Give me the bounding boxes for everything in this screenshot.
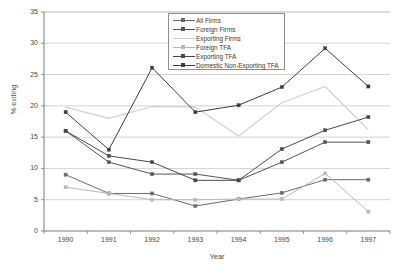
line-chart: % exiting Year 05101520253035 1990199119… — [0, 0, 402, 270]
x-tick-label: 1992 — [132, 236, 172, 243]
legend-item: Domestic Non-Exporting TFA — [169, 61, 284, 70]
x-tick-label: 1991 — [89, 236, 129, 243]
y-tick-label: 25 — [12, 71, 38, 78]
y-tick-label: 5 — [12, 196, 38, 203]
legend-item: Foreign TFA — [169, 43, 284, 52]
legend-swatch-icon — [173, 43, 195, 52]
chart-legend: All FirmsForeign FirmsExporting FirmsFor… — [168, 13, 285, 70]
legend-swatch-icon — [173, 61, 195, 70]
y-tick-label: 20 — [12, 102, 38, 109]
legend-item: Exporting TFA — [169, 52, 284, 61]
x-axis-label: Year — [44, 252, 390, 261]
legend-item: Exporting Firms — [169, 34, 284, 43]
legend-item-label: Foreign TFA — [195, 43, 231, 52]
legend-item-label: Exporting Firms — [195, 34, 241, 43]
series-exporting-firms — [66, 86, 369, 135]
series-all-firms — [64, 173, 370, 207]
legend-swatch-icon — [173, 52, 195, 61]
legend-item-label: All Firms — [195, 16, 221, 25]
x-tick-label: 1995 — [262, 236, 302, 243]
legend-swatch-icon — [173, 25, 195, 34]
y-tick-label: 15 — [12, 133, 38, 140]
x-tick-label: 1994 — [219, 236, 259, 243]
legend-item: All Firms — [169, 16, 284, 25]
legend-swatch-icon — [173, 34, 195, 43]
legend-item: Foreign Firms — [169, 25, 284, 34]
y-tick-label: 35 — [12, 8, 38, 15]
y-tick-label: 10 — [12, 164, 38, 171]
x-tick-label: 1997 — [348, 236, 388, 243]
data-series-group — [64, 47, 370, 214]
y-tick-label: 30 — [12, 39, 38, 46]
x-tick-label: 1990 — [46, 236, 86, 243]
legend-item-label: Exporting TFA — [195, 52, 236, 61]
y-tick-label: 0 — [12, 227, 38, 234]
x-tick-label: 1996 — [305, 236, 345, 243]
x-tick-label: 1993 — [175, 236, 215, 243]
legend-swatch-icon — [173, 16, 195, 25]
legend-item-label: Domestic Non-Exporting TFA — [195, 61, 279, 70]
legend-item-label: Foreign Firms — [195, 25, 235, 34]
